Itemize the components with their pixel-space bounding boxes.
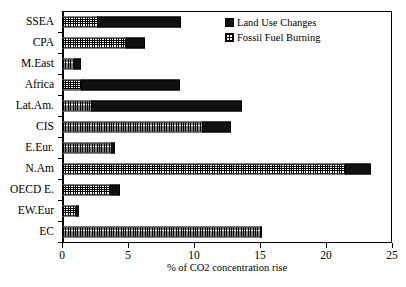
y-axis-label-africa: Africa (25, 79, 54, 90)
bar-row (62, 159, 392, 180)
bar-row (62, 95, 392, 116)
y-axis-label-cpa: CPA (33, 37, 54, 48)
chart-legend: Land Use Changes Fossil Fuel Burning (225, 16, 320, 46)
x-axis-tick (194, 243, 195, 248)
y-axis-label-ssea: SSEA (26, 16, 54, 27)
bar-segment-land-use (345, 164, 371, 175)
bar-row (62, 116, 392, 137)
legend-label-fossil-fuel: Fossil Fuel Burning (237, 31, 320, 44)
y-axis-label-e-eur: E.Eur. (25, 142, 54, 153)
x-axis-tick-label: 15 (254, 249, 266, 261)
bar-segment-fossil-fuel (62, 79, 82, 90)
x-axis-tick (128, 243, 129, 248)
bar-row (62, 201, 392, 222)
y-axis-label-ew-eur: EW.Eur (18, 205, 54, 216)
bar-segment-land-use (81, 79, 180, 90)
bar-chart: SSEACPAM.EastAfricaLat.Am.CISE.Eur.N.AmO… (0, 0, 406, 287)
bar-row (62, 74, 392, 95)
bar-segment-land-use (111, 143, 115, 154)
bar-segment-fossil-fuel (62, 206, 77, 217)
bar-segment-fossil-fuel (62, 37, 127, 48)
y-axis-label-ec: EC (39, 226, 54, 237)
x-axis-tick (392, 243, 393, 248)
x-axis-tick-label: 25 (386, 249, 398, 261)
y-axis-label-lat-am: Lat.Am. (16, 100, 54, 111)
x-axis-title: % of CO2 concentration rise (62, 262, 392, 273)
stacked-bar (62, 227, 262, 238)
bar-segment-land-use (97, 16, 181, 27)
bar-segment-land-use (76, 206, 80, 217)
x-axis-tick (326, 243, 327, 248)
bar-row (62, 180, 392, 201)
bar-segment-fossil-fuel (62, 100, 92, 111)
bar-segment-fossil-fuel (62, 121, 203, 132)
bar-segment-fossil-fuel (62, 164, 346, 175)
y-axis-label-oecd-e: OECD E. (10, 184, 54, 195)
bar-segment-land-use (260, 227, 262, 238)
bar-segment-land-use (126, 37, 146, 48)
stacked-bar (62, 143, 115, 154)
bar-segment-land-use (74, 58, 81, 69)
legend-swatch-land-use-icon (225, 18, 234, 27)
x-axis-tick-label: 20 (320, 249, 332, 261)
x-axis-tick (62, 243, 63, 248)
bar-segment-fossil-fuel (62, 143, 112, 154)
bar-segment-fossil-fuel (62, 227, 261, 238)
bar-segment-land-use (110, 185, 121, 196)
y-axis-label-m-east: M.East (21, 58, 54, 69)
legend-label-land-use: Land Use Changes (237, 16, 316, 29)
stacked-bar (62, 185, 120, 196)
bar-row (62, 222, 392, 243)
legend-swatch-fossil-fuel-icon (225, 33, 234, 42)
bar-segment-fossil-fuel (62, 185, 111, 196)
bar-row (62, 53, 392, 74)
y-axis-label-cis: CIS (36, 121, 54, 132)
stacked-bar (62, 37, 145, 48)
x-axis-tick-label: 0 (59, 249, 65, 261)
legend-item-fossil-fuel: Fossil Fuel Burning (225, 31, 320, 44)
x-axis-tick (260, 243, 261, 248)
bar-segment-fossil-fuel (62, 16, 98, 27)
x-axis-tick-label: 10 (188, 249, 200, 261)
stacked-bar (62, 206, 79, 217)
bar-segment-land-use (91, 100, 241, 111)
stacked-bar (62, 121, 231, 132)
y-axis-label-n-am: N.Am (26, 163, 54, 174)
stacked-bar (62, 164, 371, 175)
y-axis-category-labels: SSEACPAM.EastAfricaLat.Am.CISE.Eur.N.AmO… (0, 11, 58, 243)
legend-item-land-use: Land Use Changes (225, 16, 320, 29)
bar-segment-land-use (202, 121, 231, 132)
stacked-bar (62, 58, 81, 69)
stacked-bar (62, 16, 181, 27)
x-axis-tick-label: 5 (125, 249, 131, 261)
bar-row (62, 137, 392, 158)
stacked-bar (62, 79, 180, 90)
stacked-bar (62, 100, 242, 111)
